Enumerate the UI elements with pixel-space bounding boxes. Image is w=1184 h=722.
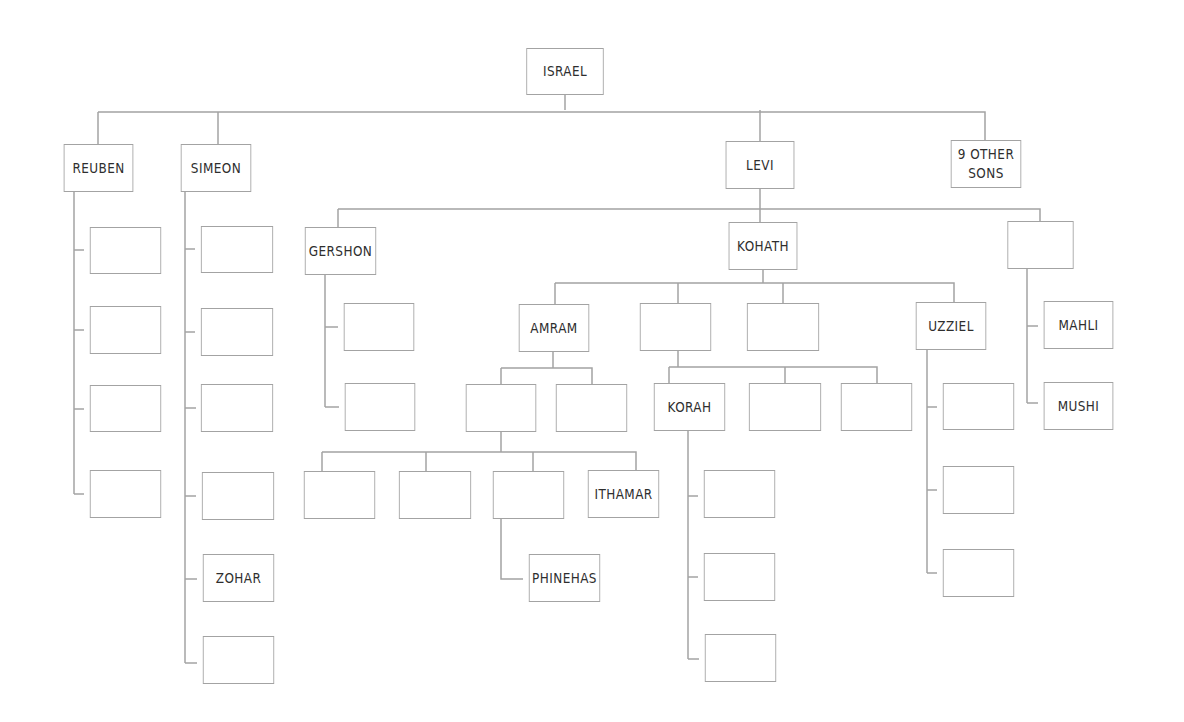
tree-node-aaron-3 — [493, 471, 564, 519]
tree-node-aaron-1 — [304, 471, 375, 519]
tree-node-simeon-1 — [201, 226, 273, 273]
tree-node-phinehas: PHINEHAS — [529, 554, 600, 602]
tree-node-mahli: MAHLI — [1044, 301, 1114, 349]
tree-node-reuben-2 — [90, 306, 161, 354]
tree-node-reuben: REUBEN — [64, 144, 134, 192]
node-label: ISRAEL — [543, 62, 587, 81]
node-label: KOHATH — [737, 237, 789, 256]
tree-node-simeon: SIMEON — [181, 144, 252, 192]
tree-node-gershon-1 — [344, 303, 415, 351]
node-label: ZOHAR — [216, 569, 262, 588]
node-label: LEVI — [746, 156, 774, 175]
node-label: 9 OTHER SONS — [958, 145, 1014, 183]
connector-line — [669, 367, 877, 383]
connector-line — [501, 368, 592, 384]
connector-lines — [0, 0, 1184, 722]
tree-node-other-sons: 9 OTHER SONS — [951, 140, 1022, 188]
connector-line — [338, 209, 1040, 221]
node-label: ITHAMAR — [594, 485, 652, 504]
tree-node-gershon: GERSHON — [305, 227, 376, 275]
tree-node-izhar-2 — [749, 383, 821, 431]
tree-node-simeon-3 — [201, 384, 273, 432]
node-label: PHINEHAS — [532, 569, 597, 588]
node-label: SIMEON — [191, 159, 241, 178]
tree-node-kohath: KOHATH — [729, 222, 798, 270]
tree-node-reuben-4 — [90, 470, 161, 518]
tree-node-israel: ISRAEL — [526, 48, 603, 95]
tree-node-izhar — [640, 303, 711, 351]
tree-node-ithamar: ITHAMAR — [588, 470, 659, 518]
tree-node-mushi: MUSHI — [1044, 382, 1114, 430]
tree-node-zohar: ZOHAR — [203, 554, 274, 602]
family-tree-diagram: ISRAELREUBENSIMEONLEVI9 OTHER SONSZOHARG… — [0, 0, 1184, 722]
tree-node-merari — [1007, 221, 1073, 269]
tree-node-levi: LEVI — [726, 141, 795, 189]
tree-node-reuben-1 — [90, 227, 161, 274]
tree-node-simeon-4 — [202, 472, 274, 520]
node-label: GERSHON — [309, 242, 372, 261]
connector-line — [501, 519, 523, 579]
node-label: REUBEN — [72, 159, 124, 178]
node-label: AMRAM — [530, 319, 577, 338]
tree-node-korah-1 — [704, 470, 775, 518]
tree-node-reuben-3 — [90, 385, 161, 432]
node-label: KORAH — [667, 398, 711, 417]
tree-node-gershon-2 — [345, 383, 416, 431]
connector-line — [98, 112, 985, 140]
tree-node-amram-1 — [466, 384, 537, 432]
connector-line — [322, 452, 636, 470]
tree-node-uzziel-1 — [943, 383, 1014, 430]
tree-node-korah: KORAH — [654, 383, 725, 431]
tree-node-uzziel: UZZIEL — [916, 302, 987, 350]
node-label: MAHLI — [1058, 316, 1098, 335]
tree-node-simeon-2 — [201, 308, 273, 356]
tree-node-uzziel-2 — [943, 466, 1014, 514]
tree-node-aaron-2 — [399, 471, 471, 519]
tree-node-amram-2 — [556, 384, 627, 432]
tree-node-korah-2 — [704, 553, 775, 601]
tree-node-hebron — [747, 303, 819, 351]
tree-node-uzziel-3 — [943, 549, 1014, 597]
node-label: MUSHI — [1058, 397, 1100, 416]
connector-line — [555, 283, 954, 302]
tree-node-amram: AMRAM — [519, 304, 590, 352]
node-label: UZZIEL — [928, 317, 974, 336]
tree-node-simeon-6 — [203, 636, 274, 684]
tree-node-korah-3 — [705, 634, 776, 682]
tree-node-izhar-3 — [841, 383, 912, 431]
